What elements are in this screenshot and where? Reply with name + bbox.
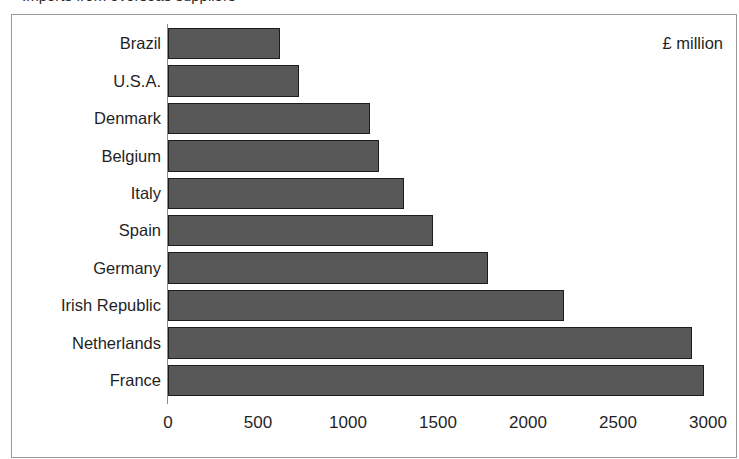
cut-off-title: Imports from overseas suppliers bbox=[0, 0, 739, 13]
bar-category-label: Italy bbox=[0, 185, 161, 202]
bar bbox=[168, 327, 692, 358]
bar-row: Belgium bbox=[12, 137, 738, 174]
bar-track bbox=[168, 178, 404, 209]
bar-row: Italy bbox=[12, 175, 738, 212]
bar-track bbox=[168, 28, 280, 59]
bar-row: Denmark bbox=[12, 100, 738, 137]
bar bbox=[168, 65, 299, 96]
bar-category-label: France bbox=[0, 372, 161, 389]
x-axis-tick-label: 500 bbox=[244, 413, 272, 433]
bar bbox=[168, 178, 404, 209]
bar-category-label: Irish Republic bbox=[0, 297, 161, 314]
bar-category-label: Spain bbox=[0, 222, 161, 239]
x-axis-tick-label: 2000 bbox=[509, 413, 547, 433]
chart-frame: BrazilU.S.A.DenmarkBelgiumItalySpainGerm… bbox=[11, 14, 737, 458]
bar-track bbox=[168, 365, 704, 396]
bar-track bbox=[168, 290, 564, 321]
bar bbox=[168, 140, 379, 171]
bar-row: France bbox=[12, 362, 738, 399]
bar bbox=[168, 103, 370, 134]
x-axis-tick-label: 3000 bbox=[689, 413, 727, 433]
bar-row: Spain bbox=[12, 212, 738, 249]
bar-row: Brazil bbox=[12, 25, 738, 62]
bar-track bbox=[168, 252, 488, 283]
bar-row: Irish Republic bbox=[12, 287, 738, 324]
x-axis-tick-label: 1000 bbox=[329, 413, 367, 433]
value-axis: 050010001500200025003000 bbox=[12, 407, 738, 437]
bar bbox=[168, 28, 280, 59]
unit-annotation: £ million bbox=[662, 34, 723, 53]
bar-track bbox=[168, 140, 379, 171]
bar bbox=[168, 215, 433, 246]
x-axis-tick-label: 1500 bbox=[419, 413, 457, 433]
bar-track bbox=[168, 327, 692, 358]
bar-category-label: Netherlands bbox=[0, 335, 161, 352]
bar-row: Netherlands bbox=[12, 324, 738, 361]
bar-row: Germany bbox=[12, 249, 738, 286]
bar bbox=[168, 290, 564, 321]
bar-row: U.S.A. bbox=[12, 62, 738, 99]
bar bbox=[168, 365, 704, 396]
bar-category-label: Denmark bbox=[0, 110, 161, 127]
x-axis-tick-label: 2500 bbox=[599, 413, 637, 433]
bar-track bbox=[168, 65, 299, 96]
cut-off-title-text: Imports from overseas suppliers bbox=[22, 0, 235, 4]
bar-track bbox=[168, 215, 433, 246]
bar-category-label: Belgium bbox=[0, 148, 161, 165]
bar bbox=[168, 252, 488, 283]
x-axis-tick-label: 0 bbox=[163, 413, 172, 433]
plot-area: BrazilU.S.A.DenmarkBelgiumItalySpainGerm… bbox=[12, 15, 738, 459]
bar-category-label: Brazil bbox=[0, 35, 161, 52]
bar-track bbox=[168, 103, 370, 134]
bar-category-label: Germany bbox=[0, 260, 161, 277]
bar-category-label: U.S.A. bbox=[0, 73, 161, 90]
